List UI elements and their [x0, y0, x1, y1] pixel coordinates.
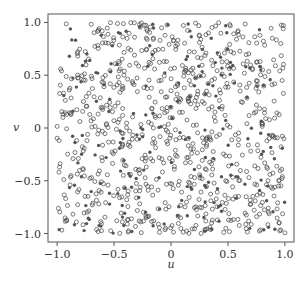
data-point [158, 38, 162, 42]
data-point [118, 129, 121, 132]
data-point [151, 224, 154, 227]
data-point [210, 207, 214, 211]
data-point [279, 42, 283, 46]
data-point [58, 92, 62, 96]
data-point [66, 152, 70, 156]
data-point [156, 188, 160, 192]
data-point [228, 230, 232, 234]
data-point [121, 215, 124, 218]
data-point [154, 146, 158, 150]
data-point [255, 215, 259, 219]
data-point [226, 197, 230, 201]
data-point [212, 115, 216, 119]
data-point [121, 137, 124, 140]
data-point [152, 137, 156, 141]
data-point [130, 230, 133, 233]
data-point [187, 50, 191, 54]
data-point [62, 94, 65, 97]
scatter-chart: −1.0−0.500.51.0 −1.0−0.500.51.0 u v [0, 0, 305, 282]
data-point [151, 126, 155, 130]
data-point [197, 165, 201, 169]
data-point [240, 153, 244, 157]
y-axis-label: v [13, 121, 20, 134]
data-point [251, 194, 255, 198]
x-tick-label: 1.0 [276, 248, 294, 261]
data-point [270, 83, 274, 87]
data-point [105, 173, 109, 177]
data-point [111, 162, 115, 166]
data-point [248, 66, 251, 69]
data-point [128, 129, 132, 133]
data-point [88, 113, 92, 117]
data-point [211, 84, 214, 87]
data-point [180, 199, 183, 202]
data-point [121, 173, 125, 177]
data-point [192, 50, 196, 54]
data-point [219, 204, 222, 207]
data-point [258, 33, 262, 37]
data-point [151, 141, 155, 145]
data-point [107, 140, 111, 144]
data-point [126, 205, 130, 209]
data-point [122, 159, 125, 162]
data-point [268, 118, 272, 122]
data-point [194, 76, 197, 79]
data-point [79, 80, 82, 83]
data-point [75, 172, 79, 176]
data-point [81, 109, 85, 113]
data-point [117, 43, 121, 47]
data-point [139, 123, 143, 127]
data-points [55, 21, 287, 236]
data-point [80, 153, 83, 156]
data-point [213, 119, 217, 123]
data-point [238, 89, 242, 93]
data-point [76, 161, 79, 164]
data-point [196, 103, 200, 107]
data-point [270, 151, 274, 155]
data-point [236, 217, 240, 221]
data-point [129, 175, 132, 178]
data-point [247, 81, 251, 85]
data-point [215, 190, 219, 194]
data-point [203, 167, 207, 171]
data-point [116, 75, 120, 79]
data-point [272, 194, 276, 198]
data-point [247, 52, 251, 56]
data-point [141, 135, 144, 138]
data-point [207, 107, 211, 111]
data-point [118, 231, 122, 235]
data-point [101, 76, 105, 80]
data-point [214, 24, 218, 28]
data-point [266, 179, 270, 183]
data-point [176, 100, 179, 103]
data-point [158, 207, 161, 210]
data-point [255, 84, 258, 87]
data-point [106, 41, 110, 45]
data-point [106, 183, 110, 187]
data-point [197, 198, 201, 202]
data-point [108, 21, 112, 25]
data-point [175, 92, 179, 96]
data-point [126, 77, 130, 81]
data-point [218, 133, 222, 137]
data-point [191, 142, 195, 146]
data-point [94, 71, 97, 74]
data-point [68, 55, 71, 58]
data-point [82, 229, 85, 232]
data-point [247, 114, 251, 118]
data-point [97, 144, 100, 147]
data-point [204, 156, 207, 159]
data-point [213, 110, 217, 114]
data-point [176, 214, 179, 217]
data-point [209, 199, 213, 203]
data-point [84, 204, 87, 207]
data-point [274, 38, 278, 42]
data-point [95, 100, 98, 103]
data-point [270, 36, 274, 40]
data-point [71, 110, 74, 113]
data-point [259, 178, 262, 181]
data-point [244, 65, 247, 68]
data-point [104, 156, 107, 159]
data-point [222, 230, 226, 234]
data-point [107, 110, 110, 113]
